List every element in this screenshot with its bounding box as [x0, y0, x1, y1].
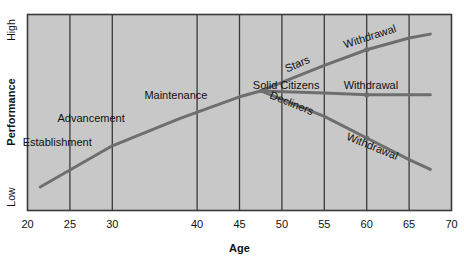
x-tick-label-70: 70 [445, 218, 457, 230]
x-tick-label-55: 55 [318, 218, 330, 230]
x-axis-tick-labels: 20253040455055606570 [21, 218, 457, 230]
chart-canvas: 20253040455055606570 Age Performance Hig… [0, 0, 464, 261]
x-tick-label-40: 40 [191, 218, 203, 230]
annotation-establishment: Establishment [23, 136, 92, 148]
annotation-maintenance: Maintenance [144, 89, 207, 101]
y-axis-title: Performance [5, 78, 17, 145]
x-tick-label-50: 50 [276, 218, 288, 230]
x-tick-label-65: 65 [403, 218, 415, 230]
career-stages-chart: 20253040455055606570 Age Performance Hig… [0, 0, 464, 261]
annotation-advancement: Advancement [57, 112, 124, 124]
x-tick-label-20: 20 [21, 218, 33, 230]
x-tick-label-30: 30 [106, 218, 118, 230]
x-tick-label-60: 60 [361, 218, 373, 230]
x-tick-label-25: 25 [64, 218, 76, 230]
annotation-solid-citizens: Solid Citizens [253, 79, 320, 91]
annotation-withdrawal-solid: Withdrawal [344, 79, 398, 91]
marker-stars [364, 47, 369, 52]
y-axis-low-label: Low [5, 187, 17, 207]
x-tick-label-45: 45 [233, 218, 245, 230]
marker-solid-citizens [364, 92, 369, 97]
x-axis-title: Age [229, 242, 250, 254]
y-axis-high-label: High [5, 19, 17, 41]
